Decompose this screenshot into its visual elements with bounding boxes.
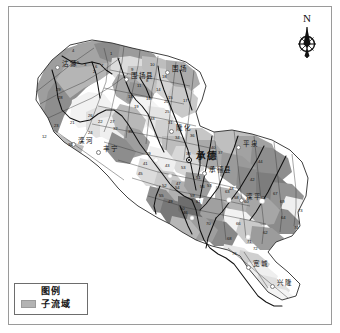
place-label-2: 平泉: [243, 138, 258, 148]
subbasin-number: 40: [211, 146, 216, 150]
town-symbol: [96, 150, 101, 155]
subbasin-number: 1: [110, 52, 112, 56]
subbasin-number: 33: [150, 117, 155, 121]
subbasin-number: 5: [77, 61, 79, 65]
subbasin-number: 19: [134, 105, 139, 109]
place-label-10: 承德县: [209, 164, 232, 174]
subbasin-number: 23: [54, 124, 59, 128]
subbasin-number: 51: [196, 176, 201, 180]
town-symbol: [270, 284, 275, 289]
subbasin-number: 20: [164, 100, 169, 104]
subbasin-number: 28: [58, 96, 63, 100]
subbasin-number: 69: [280, 200, 285, 204]
subbasin-number: 12: [42, 135, 47, 139]
subbasin-number: 52: [162, 184, 167, 188]
subbasin-number: 57: [207, 184, 212, 188]
north-arrow-letter: N: [290, 12, 324, 24]
subbasin-number: 16: [146, 97, 151, 101]
subbasin-number: 70: [206, 222, 211, 226]
subbasin-number: 21: [70, 121, 75, 125]
subbasin-number: 58: [234, 196, 239, 200]
subbasin-number: 45: [138, 172, 143, 176]
legend-title: 图例: [15, 286, 87, 297]
subbasin-number: 61: [196, 200, 201, 204]
subbasin-number: 37: [218, 151, 223, 155]
subbasin-number: 17: [183, 99, 188, 103]
place-label-1: 围场: [172, 63, 187, 73]
subbasin-number: 18: [162, 75, 167, 79]
subbasin-number: 35: [128, 130, 133, 134]
subbasin-number: 4: [72, 49, 74, 53]
subbasin-number: 67: [273, 192, 278, 196]
subbasin-number: 71: [247, 240, 252, 244]
subbasin-number: 38: [186, 152, 191, 156]
town-symbol: [202, 171, 207, 176]
subbasin-number: 26: [88, 114, 93, 118]
subbasin-number: 62: [263, 231, 268, 235]
subbasin-number: 39: [146, 152, 151, 156]
place-label-7: 宽城: [253, 258, 268, 268]
subbasin-number: 73: [298, 209, 303, 213]
capital-city-symbol: [186, 157, 192, 163]
subbasin-number: 31: [168, 121, 173, 125]
subbasin-number: 24: [88, 131, 93, 135]
subbasin-number: 55: [159, 194, 164, 198]
subbasin-number: 6: [95, 65, 97, 69]
north-arrow: N: [290, 12, 324, 64]
legend-item-subwatershed: 子流域: [15, 299, 87, 309]
town-symbol: [124, 77, 129, 82]
subbasin-number: 27: [110, 120, 115, 124]
subbasin-number: 46: [183, 211, 188, 215]
subbasin-number: 63: [225, 190, 230, 194]
subbasin-number: 42: [250, 178, 255, 182]
subbasin-number: 3: [84, 63, 86, 67]
town-symbol: [55, 65, 60, 70]
town-symbol: [246, 265, 251, 270]
legend-swatch-subwatershed: [21, 300, 36, 308]
town-symbol: [236, 145, 241, 150]
subbasin-number: 72: [253, 247, 258, 251]
subbasin-number: 54: [175, 186, 180, 190]
subbasin-number: 36: [190, 134, 195, 138]
subbasin-number: 41: [143, 162, 148, 166]
place-label-6: 兴隆: [277, 277, 292, 287]
subbasin-number: 2: [93, 70, 95, 74]
subbasin-number: 53: [181, 166, 186, 170]
place-label-4: 隆化: [176, 122, 191, 132]
legend-label-subwatershed: 子流域: [41, 299, 71, 309]
compass-north-icon: [290, 25, 324, 63]
place-label-8: 沽源: [62, 58, 77, 68]
subbasin-number: 68: [227, 237, 232, 241]
subbasin-number: 64: [281, 216, 286, 220]
place-label-3: 丰宁: [103, 143, 118, 153]
subbasin-number: 29: [56, 88, 61, 92]
subbasin-number: 49: [168, 200, 173, 204]
subbasin-number: 25: [165, 110, 170, 114]
place-label-9: 围场县: [131, 70, 154, 80]
subbasin-number: 74: [294, 226, 299, 230]
subbasin-number: 60: [244, 200, 249, 204]
map-page: N 图例 子流域 承德围场平泉丰宁隆化滦平兴隆宽城沽源围场县承德县滦河41536…: [0, 0, 340, 333]
subbasin-number: 34: [175, 136, 180, 140]
subbasin-number: 59: [190, 194, 195, 198]
subbasin-number: 10: [150, 63, 155, 67]
subbasin-number: 32: [113, 127, 118, 131]
subbasin-number: 9: [131, 68, 133, 72]
subbasin-number: 76: [232, 252, 237, 256]
place-label-11: 滦河: [78, 135, 93, 145]
subbasin-number: 30: [68, 143, 73, 147]
subbasin-number: 43: [165, 164, 170, 168]
subbasin-number: 7: [101, 64, 103, 68]
map-legend: 图例 子流域: [14, 283, 88, 315]
subbasin-number: 66: [236, 222, 241, 226]
subbasin-number: 13: [128, 95, 133, 99]
town-symbol: [169, 129, 174, 134]
subbasin-number: 56: [200, 185, 205, 189]
subbasin-number: 65: [261, 196, 266, 200]
subbasin-number: 11: [137, 84, 141, 88]
subbasin-number: 8: [146, 79, 148, 83]
subbasin-number: 22: [98, 120, 103, 124]
subbasin-number: 14: [156, 88, 161, 92]
subbasin-number: 44: [258, 160, 263, 164]
